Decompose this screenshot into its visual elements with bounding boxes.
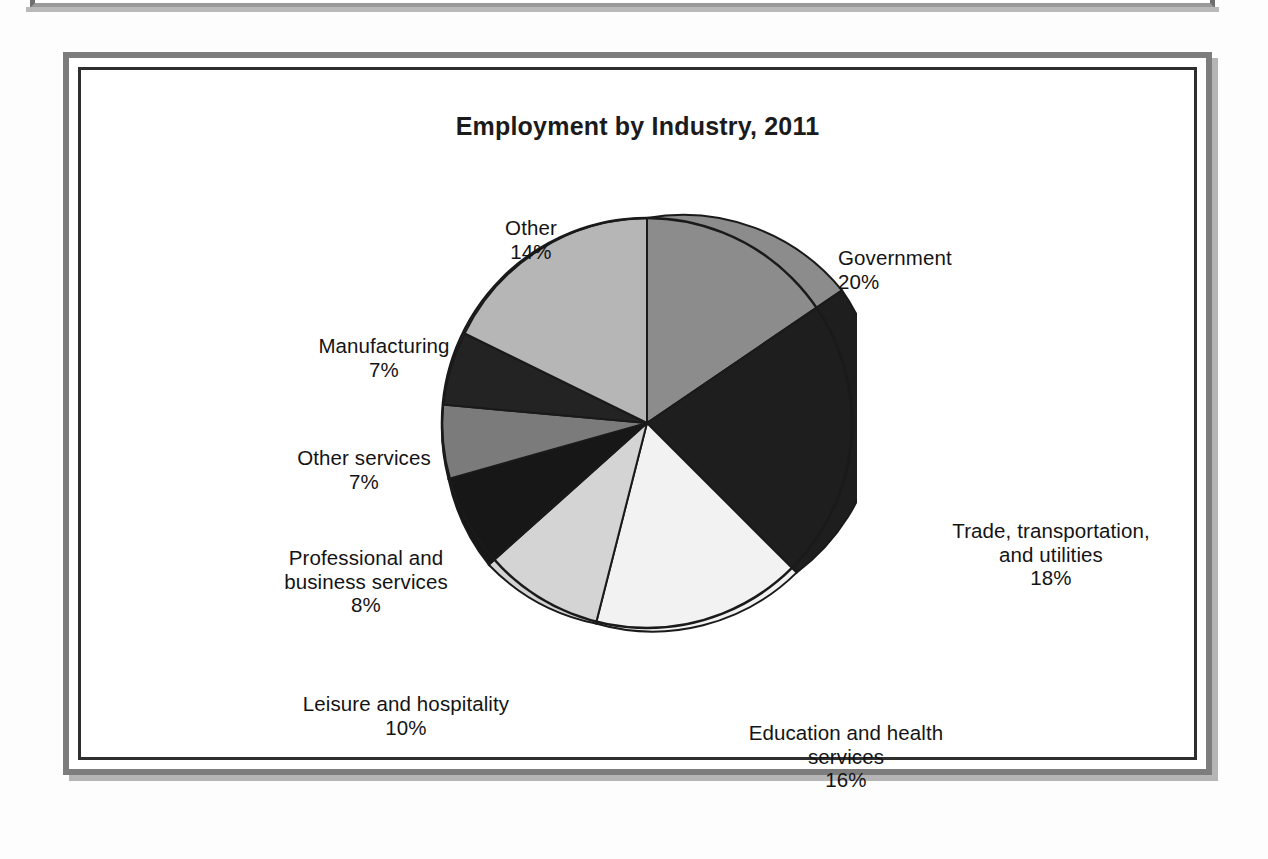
pie-label-other-services: Other services 7% — [229, 422, 499, 517]
pie-label-manufacturing-value: 7% — [249, 358, 519, 382]
pie-label-manufacturing: Manufacturing 7% — [249, 310, 519, 405]
pie-label-leisure: Leisure and hospitality 10% — [261, 668, 551, 763]
pie-label-government-value: 20% — [838, 270, 1068, 294]
pie-label-government-text: Government — [838, 246, 952, 269]
pie-chart: Government 20% Trade, transportation, an… — [81, 70, 1194, 757]
pie-label-professional-value: 8% — [231, 593, 501, 617]
figure-inner-frame: Employment by Industry, 2011 — [78, 67, 1197, 760]
pie-label-education: Education and health services 16% — [712, 697, 980, 816]
pie-label-professional: Professional and business services 8% — [231, 522, 501, 641]
pie-label-leisure-value: 10% — [261, 716, 551, 740]
pie-label-manufacturing-text: Manufacturing — [318, 334, 449, 357]
pie-label-government: Government 20% — [838, 222, 1068, 317]
top-frame-fragment — [30, 0, 1215, 8]
pie-label-trade: Trade, transportation, and utilities 18% — [917, 495, 1185, 614]
scanned-page: Employment by Industry, 2011 — [0, 0, 1268, 859]
pie-label-trade-value: 18% — [917, 566, 1185, 590]
pie-label-education-value: 16% — [712, 768, 980, 792]
pie-label-professional-text: Professional and business services — [284, 546, 448, 593]
pie-label-other-services-value: 7% — [229, 470, 499, 494]
pie-label-other-services-text: Other services — [297, 446, 431, 469]
pie-label-other-value: 14% — [421, 240, 641, 264]
figure-outer-frame: Employment by Industry, 2011 — [63, 52, 1212, 775]
pie-label-leisure-text: Leisure and hospitality — [303, 692, 509, 715]
pie-label-education-text: Education and health services — [749, 721, 944, 768]
pie-label-other: Other 14% — [421, 192, 641, 287]
pie-label-trade-text: Trade, transportation, and utilities — [952, 519, 1149, 566]
pie-label-other-text: Other — [505, 216, 557, 239]
